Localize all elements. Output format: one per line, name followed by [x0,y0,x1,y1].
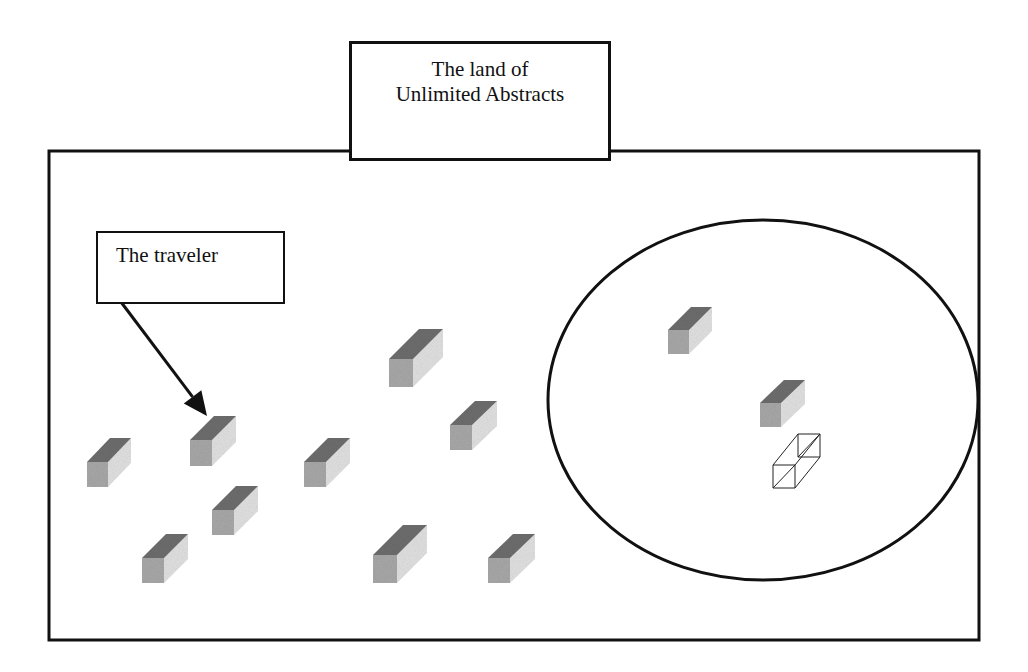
abstract-circle-region [548,220,978,580]
abstract-block [488,534,535,583]
block-front-face [212,510,234,535]
wireframe-edge [798,434,820,457]
traveler-label: The traveler [116,243,218,267]
block-front-face [488,558,510,583]
block-front-face [450,425,472,450]
blocks-layer [87,307,805,583]
block-front-face [373,555,397,583]
title-box: The land of Unlimited Abstracts [349,41,611,161]
abstract-block [373,525,427,583]
wireframe-edge [773,465,795,488]
traveler-block [190,416,236,466]
traveler-label-box: The traveler [96,231,285,304]
block-front-face [668,330,689,354]
block-front-face [304,462,326,487]
arrow-shaft [121,302,193,397]
abstract-block [450,401,497,450]
wireframe-edge [795,434,820,465]
title-line-2: Unlimited Abstracts [352,82,608,107]
arrow-head-icon [184,390,207,416]
wireframe-edge [773,434,798,465]
block-front-face [142,558,164,583]
wireframe-block [773,434,820,488]
abstract-block [212,486,258,535]
wireframe-edge [795,457,820,488]
block-front-face [760,403,781,427]
abstract-block [87,438,131,487]
block-front-face [87,462,108,487]
block-front-face [190,440,212,466]
abstract-block [389,329,443,387]
abstract-block [760,380,805,427]
title-line-1: The land of [352,57,608,82]
abstract-block [142,534,188,583]
abstract-block [304,438,350,487]
block-front-face [389,359,413,387]
traveler-arrow [121,302,207,416]
abstract-block [668,307,712,354]
